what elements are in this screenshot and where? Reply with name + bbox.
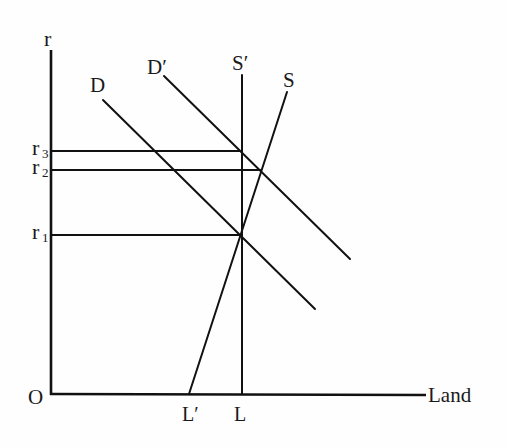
curve-label-s-prime: S′ <box>232 51 248 75</box>
origin-label: O <box>28 385 43 409</box>
tick-label-l-prime: L′ <box>182 403 199 425</box>
svg-text:1: 1 <box>42 230 49 245</box>
x-axis-label: Land <box>428 383 472 407</box>
y-axis-label: r <box>44 26 52 51</box>
svg-text:2: 2 <box>42 165 49 180</box>
supply-curve-s <box>189 92 287 394</box>
svg-text:r: r <box>32 154 40 179</box>
tick-label-l: L <box>234 403 246 425</box>
demand-curve-d-prime <box>164 76 350 259</box>
svg-text:3: 3 <box>42 146 49 161</box>
svg-text:r: r <box>32 219 40 244</box>
demand-curve-d <box>103 100 315 309</box>
x-axis <box>50 394 426 395</box>
tick-label-r1: r 1 <box>32 219 49 245</box>
curve-label-d: D <box>90 73 105 97</box>
land-rent-diagram: r Land O D D′ S′ S r 3 r 2 r 1 L′ L <box>0 0 507 447</box>
curve-label-s: S <box>283 68 295 92</box>
curve-label-d-prime: D′ <box>147 55 167 79</box>
